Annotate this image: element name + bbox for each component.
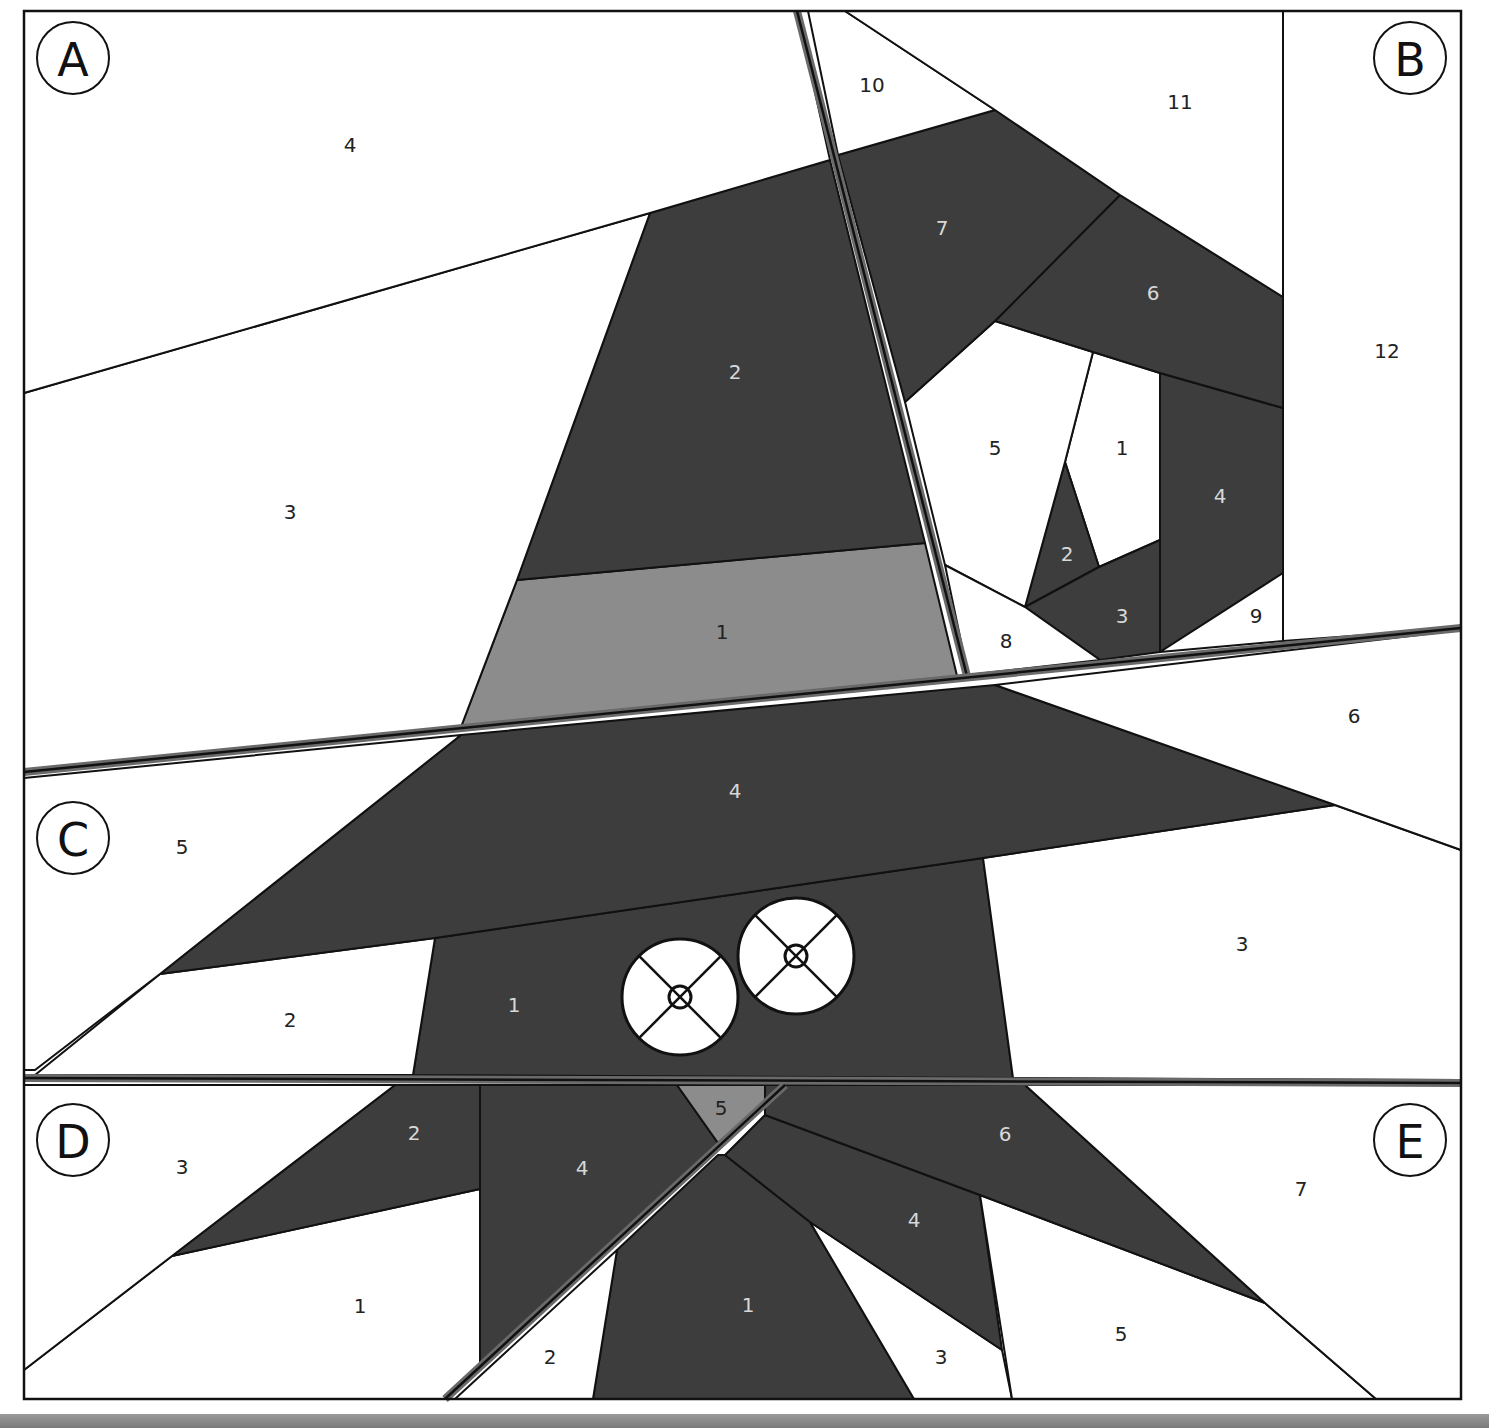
piece-label-e5: 5 xyxy=(1115,1322,1128,1346)
piece-label-d2: 2 xyxy=(408,1121,421,1145)
piece-label-d1: 1 xyxy=(354,1294,367,1318)
piece-label-d3: 3 xyxy=(176,1155,189,1179)
piece-label-c1: 1 xyxy=(508,993,521,1017)
section-letter-text: D xyxy=(55,1115,90,1169)
section-letter-text: B xyxy=(1394,33,1426,87)
piece-label-e4: 4 xyxy=(908,1208,921,1232)
piece-label-b12: 12 xyxy=(1374,339,1399,363)
piece-b12 xyxy=(1283,11,1461,641)
piece-label-b8: 8 xyxy=(1000,629,1013,653)
piece-label-b3: 3 xyxy=(1116,604,1129,628)
piece-label-a4: 4 xyxy=(344,133,357,157)
piece-label-b10: 10 xyxy=(859,73,884,97)
piece-label-b4: 4 xyxy=(1214,484,1227,508)
piece-label-c3: 3 xyxy=(1236,932,1249,956)
piece-label-c6: 6 xyxy=(1348,704,1361,728)
section-letter-text: A xyxy=(57,33,89,87)
piece-label-b2: 2 xyxy=(1061,542,1074,566)
piece-label-b7: 7 xyxy=(936,216,949,240)
section-letter-b: B xyxy=(1374,22,1446,94)
section-letter-d: D xyxy=(37,1104,109,1176)
section-letter-text: E xyxy=(1395,1115,1424,1169)
piece-label-d4: 4 xyxy=(576,1156,589,1180)
piece-label-c2: 2 xyxy=(284,1008,297,1032)
section-letter-text: C xyxy=(57,813,89,867)
left-eye xyxy=(622,939,738,1055)
bottom-bar xyxy=(0,1414,1489,1428)
piece-label-b9: 9 xyxy=(1250,604,1263,628)
piece-label-c4: 4 xyxy=(729,779,742,803)
piece-label-a1: 1 xyxy=(716,620,729,644)
piece-label-c5: 5 xyxy=(176,835,189,859)
piece-label-a2: 2 xyxy=(729,360,742,384)
pieces-layer xyxy=(24,11,1461,1399)
piece-label-b11: 11 xyxy=(1167,90,1192,114)
section-letter-c: C xyxy=(37,802,109,874)
piece-label-d5: 5 xyxy=(715,1096,728,1120)
piece-label-e6: 6 xyxy=(999,1122,1012,1146)
piece-label-e7: 7 xyxy=(1295,1177,1308,1201)
piece-label-e1: 1 xyxy=(742,1293,755,1317)
piece-label-e2: 2 xyxy=(544,1345,557,1369)
section-letter-e: E xyxy=(1374,1104,1446,1176)
piece-label-b6: 6 xyxy=(1147,281,1160,305)
piece-label-b5: 5 xyxy=(989,436,1002,460)
piece-label-a3: 3 xyxy=(284,500,297,524)
section-letter-a: A xyxy=(37,22,109,94)
right-eye xyxy=(738,898,854,1014)
piece-label-b1: 1 xyxy=(1116,436,1129,460)
paper-piecing-pattern: 1234123456789101112123456123451234567 AB… xyxy=(0,0,1489,1428)
piece-label-e3: 3 xyxy=(935,1345,948,1369)
